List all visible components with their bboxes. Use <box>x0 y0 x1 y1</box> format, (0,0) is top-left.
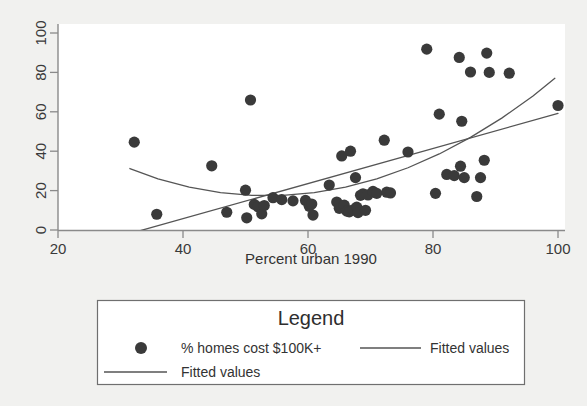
scatter-point <box>421 44 432 55</box>
scatter-point <box>379 135 390 146</box>
scatter-point <box>484 67 495 78</box>
scatter-plot-figure: 020406080100 20406080100 Percent urban 1… <box>0 0 587 406</box>
legend-marker-dot-icon <box>135 342 147 354</box>
scatter-point <box>430 188 441 199</box>
scatter-point <box>129 137 140 148</box>
scatter-point <box>350 172 361 183</box>
scatter-point <box>259 200 270 211</box>
scatter-point <box>454 52 465 63</box>
scatter-point <box>307 209 318 220</box>
legend-item-label-fitted-values-1: Fitted values <box>430 340 509 356</box>
y-tick-label: 0 <box>32 226 49 234</box>
scatter-point <box>481 47 492 58</box>
scatter-point <box>475 172 486 183</box>
y-tick-label: 20 <box>32 182 49 199</box>
x-tick-label: 80 <box>425 240 442 257</box>
x-tick-label: 100 <box>545 240 570 257</box>
y-tick-label: 80 <box>32 64 49 81</box>
scatter-point <box>241 212 252 223</box>
scatter-point <box>465 66 476 77</box>
scatter-point <box>459 172 470 183</box>
scatter-point <box>287 195 298 206</box>
legend-item-label-fitted-values-2: Fitted values <box>181 364 260 380</box>
scatter-point <box>402 146 413 157</box>
scatter-point <box>206 160 217 171</box>
y-tick-label: 40 <box>32 143 49 160</box>
scatter-point <box>240 185 251 196</box>
scatter-point <box>552 100 563 111</box>
y-tick-label: 100 <box>32 20 49 45</box>
scatter-point <box>471 191 482 202</box>
scatter-point <box>456 116 467 127</box>
scatter-point <box>504 68 515 79</box>
scatter-point <box>276 194 287 205</box>
scatter-point <box>345 146 356 157</box>
scatter-point <box>151 209 162 220</box>
x-tick-label: 20 <box>50 240 67 257</box>
scatter-point <box>385 187 396 198</box>
scatter-point <box>455 161 466 172</box>
scatter-point <box>434 109 445 120</box>
legend-item-label-homes-cost: % homes cost $100K+ <box>181 340 321 356</box>
scatter-point <box>245 94 256 105</box>
x-tick-label: 40 <box>175 240 192 257</box>
y-tick-label: 60 <box>32 103 49 120</box>
legend-title: Legend <box>278 307 345 329</box>
scatter-point <box>449 170 460 181</box>
scatter-point <box>479 155 490 166</box>
scatter-point <box>360 205 371 216</box>
x-axis-title: Percent urban 1990 <box>245 250 377 267</box>
scatter-point <box>324 179 335 190</box>
figure-canvas: 020406080100 20406080100 Percent urban 1… <box>0 0 587 406</box>
scatter-point <box>306 198 317 209</box>
scatter-point <box>221 207 232 218</box>
scatter-point <box>371 188 382 199</box>
